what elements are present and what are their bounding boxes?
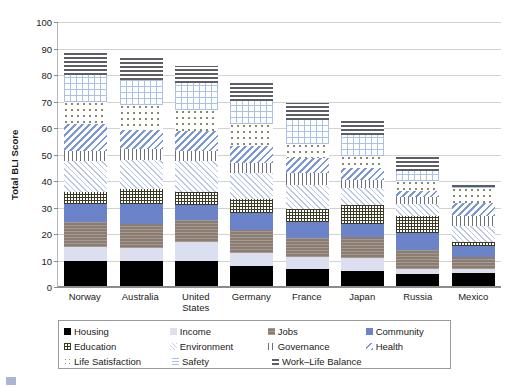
stacked-bar	[64, 53, 107, 286]
bar-segment-life-satisfaction	[120, 105, 163, 130]
bar-segment-education	[230, 199, 273, 214]
legend-item[interactable]: Life Satisfaction	[64, 357, 172, 367]
legend-swatch-icon	[366, 343, 373, 350]
bar-segment-safety	[175, 83, 218, 110]
bar-segment-work-life-balance	[230, 83, 273, 100]
legend-item[interactable]: Safety	[172, 357, 272, 367]
bar-segment-housing	[341, 271, 384, 286]
x-axis-label: Germany	[224, 289, 280, 319]
bar-segment-life-satisfaction	[341, 156, 384, 168]
bar-segment-health	[452, 203, 495, 216]
bar-segment-jobs	[64, 222, 107, 247]
bar-segment-health	[120, 130, 163, 149]
legend-item[interactable]: Health	[366, 342, 446, 352]
bar-segment-life-satisfaction	[175, 110, 218, 131]
legend-label: Education	[74, 342, 116, 352]
bar-segment-health	[341, 168, 384, 180]
y-axis-tick-label: 100	[8, 17, 52, 28]
x-axis-label: Australia	[113, 289, 169, 319]
legend-label: Life Satisfaction	[74, 357, 141, 367]
bar-segment-safety	[452, 187, 495, 188]
stacked-bar	[230, 83, 273, 286]
bar-segment-income	[396, 269, 439, 274]
legend-label: Safety	[182, 357, 209, 367]
stacked-bar	[120, 58, 163, 286]
bar-segment-education	[452, 242, 495, 246]
bar-segment-work-life-balance	[396, 156, 439, 171]
legend-item[interactable]: Education	[64, 342, 170, 352]
bar-segment-work-life-balance	[341, 120, 384, 135]
legend-item[interactable]: Work–Life Balance	[272, 357, 372, 367]
legend-swatch-icon	[170, 343, 177, 350]
bar-segment-work-life-balance	[120, 58, 163, 81]
bar-segment-environment	[341, 188, 384, 205]
bar-segment-jobs	[396, 250, 439, 269]
bar-segment-community	[396, 233, 439, 250]
chart-legend: HousingIncomeJobsCommunityEducationEnvir…	[58, 320, 451, 369]
bar-segment-safety	[341, 135, 384, 156]
bar-segment-life-satisfaction	[64, 102, 107, 125]
legend-label: Income	[180, 327, 211, 337]
bar-segment-education	[64, 192, 107, 204]
bar-segment-life-satisfaction	[396, 181, 439, 190]
gridline	[58, 287, 501, 288]
legend-item[interactable]: Jobs	[268, 327, 366, 337]
bar-segment-safety	[396, 171, 439, 182]
plot-area	[57, 22, 501, 287]
y-axis-tick-label: 50	[8, 149, 52, 160]
stacked-bar	[452, 185, 495, 286]
legend-row: HousingIncomeJobsCommunity	[64, 324, 446, 339]
legend-item[interactable]: Governance	[268, 342, 366, 352]
bar-column	[58, 22, 113, 286]
bar-segment-jobs	[230, 230, 273, 253]
legend-swatch-icon	[172, 358, 179, 365]
legend-swatch-icon	[366, 328, 373, 335]
y-axis-tick-label: 30	[8, 202, 52, 213]
bar-segment-jobs	[175, 220, 218, 243]
bar-segment-community	[175, 205, 218, 220]
bar-segment-housing	[452, 273, 495, 286]
bar-segment-housing	[286, 269, 329, 286]
bar-segment-jobs	[452, 257, 495, 269]
y-axis-tick-label: 90	[8, 43, 52, 54]
bar-segment-governance	[64, 151, 107, 162]
bar-segment-housing	[396, 274, 439, 286]
x-axis-label: Norway	[57, 289, 113, 319]
bar-segment-environment	[120, 160, 163, 189]
bar-segment-housing	[64, 261, 107, 286]
bar-segment-community	[341, 224, 384, 237]
y-axis-tick-label: 20	[8, 229, 52, 240]
bar-column	[390, 22, 445, 286]
bar-segment-community	[230, 213, 273, 230]
x-axis-label: Japan	[335, 289, 391, 319]
legend-item[interactable]: Environment	[170, 342, 268, 352]
legend-label: Work–Life Balance	[282, 357, 362, 367]
legend-label: Governance	[278, 342, 330, 352]
bar-series-container	[58, 22, 501, 286]
bar-segment-governance	[396, 197, 439, 204]
stacked-bar	[175, 66, 218, 286]
bar-segment-governance	[120, 149, 163, 160]
bar-segment-education	[175, 192, 218, 205]
legend-swatch-icon	[64, 358, 71, 365]
bar-segment-jobs	[286, 238, 329, 257]
bar-segment-jobs	[341, 237, 384, 258]
legend-item[interactable]: Income	[170, 327, 268, 337]
bar-segment-work-life-balance	[64, 53, 107, 76]
bar-segment-life-satisfaction	[452, 188, 495, 203]
bar-segment-governance	[175, 151, 218, 162]
bar-segment-environment	[396, 204, 439, 216]
bar-segment-health	[175, 131, 218, 151]
bar-segment-environment	[230, 173, 273, 198]
bar-segment-housing	[230, 266, 273, 286]
bar-segment-safety	[120, 80, 163, 105]
y-axis-tick-label: 70	[8, 96, 52, 107]
legend-swatch-icon	[170, 328, 177, 335]
y-axis-tick-label: 80	[8, 70, 52, 81]
legend-item[interactable]: Community	[366, 327, 446, 337]
bar-segment-education	[396, 216, 439, 233]
bar-segment-environment	[64, 161, 107, 191]
bar-segment-life-satisfaction	[286, 144, 329, 157]
legend-item[interactable]: Housing	[64, 327, 170, 337]
y-axis-tick-label: 40	[8, 176, 52, 187]
